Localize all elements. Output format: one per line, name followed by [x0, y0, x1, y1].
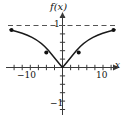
marker-left-mid [44, 51, 48, 55]
x-tick-label-neg10: −10 [17, 71, 36, 80]
marker-right-mid [77, 51, 81, 55]
y-axis-function-label: f(x) [50, 2, 67, 12]
x-axis-label: x [115, 61, 120, 70]
y-tick-label-neg1: −1 [50, 99, 63, 108]
marker-right-endpoint [112, 28, 116, 32]
function-graph-figure: f(x) x −10 10 1 −1 [0, 0, 124, 119]
marker-left-endpoint [10, 28, 14, 32]
x-tick-label-pos10: 10 [96, 71, 107, 80]
y-tick-label-1: 1 [54, 20, 60, 29]
